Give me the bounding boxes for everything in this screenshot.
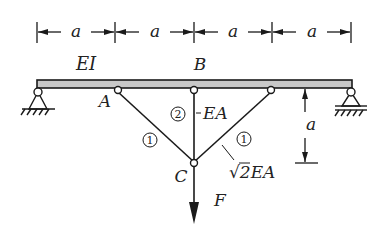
left-pin-support	[21, 88, 55, 115]
member-2-property: EA	[202, 103, 228, 123]
hinge-a	[115, 87, 122, 94]
load-label-f: F	[213, 190, 227, 210]
member-id-left: 1	[147, 134, 154, 147]
beam-label-ei: EI	[75, 53, 97, 74]
vdim-label: a	[306, 114, 316, 134]
dim-label-4: a	[307, 21, 317, 41]
truss-members	[118, 92, 271, 162]
sqrt-rest: 2EA	[239, 162, 276, 182]
node-label-c: C	[174, 166, 187, 186]
right-roller-support	[335, 88, 367, 116]
sqrt-symbol: √	[229, 162, 240, 182]
node-label-a: A	[97, 91, 111, 111]
member-id-right: 1	[241, 133, 248, 146]
dim-label-3: a	[228, 21, 238, 41]
member-1-property: √2EA	[229, 162, 275, 182]
structure-diagram: a a a a EI A B C	[0, 0, 390, 242]
hinge-c	[191, 160, 198, 167]
member-id-center: 2	[175, 108, 182, 121]
dim-label-2: a	[150, 21, 160, 41]
member-1-left	[118, 92, 194, 162]
hinge-b	[191, 87, 198, 94]
horizontal-dimensions	[37, 22, 351, 43]
dim-label-1: a	[71, 21, 81, 41]
sqrt2ea-leader	[222, 145, 234, 160]
load-arrow-icon	[189, 202, 199, 224]
node-label-b: B	[193, 54, 207, 74]
hinge-right	[268, 87, 275, 94]
